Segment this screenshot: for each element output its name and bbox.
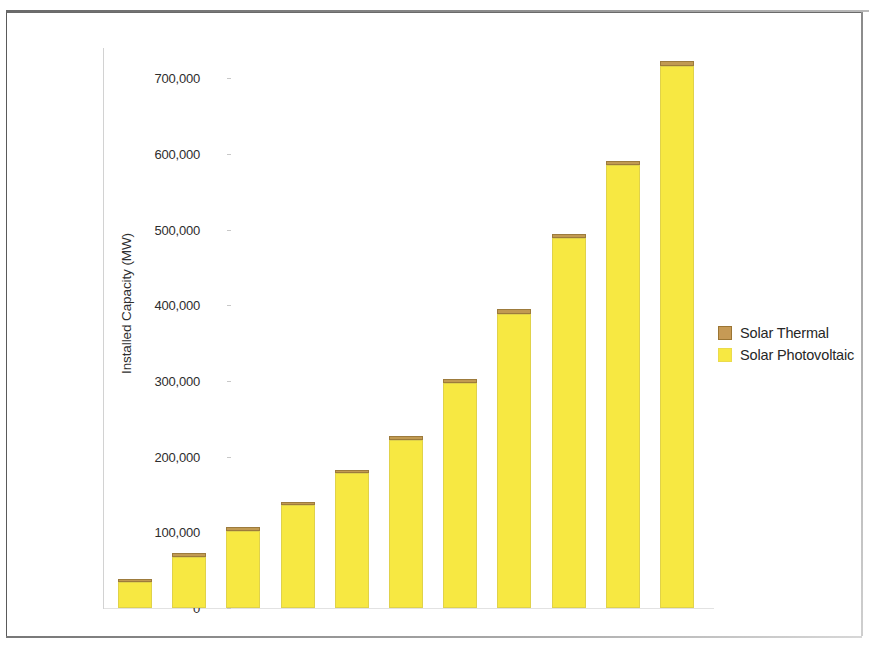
bar-segment-solar-photovoltaic[interactable] (281, 505, 315, 608)
y-axis-ticks: 0100,000200,000300,000400,000500,000600,… (126, 48, 200, 608)
bar-segment-solar-photovoltaic[interactable] (172, 557, 206, 608)
y-tick-mark (227, 305, 231, 306)
bar-segment-solar-thermal[interactable] (552, 234, 586, 238)
plot-area: Installed Capacity (MW) 0100,000200,0003… (104, 48, 704, 608)
chart-page: Installed Capacity (MW) 0100,000200,0003… (0, 0, 869, 649)
y-tick-mark (227, 78, 231, 79)
y-tick-label: 700,000 (130, 71, 200, 86)
y-tick-label: 200,000 (130, 449, 200, 464)
bar-segment-solar-thermal[interactable] (335, 470, 369, 474)
y-tick-label: 400,000 (130, 298, 200, 313)
bar-segment-solar-thermal[interactable] (660, 61, 694, 66)
bar-segment-solar-thermal[interactable] (606, 161, 640, 166)
y-tick-label: 300,000 (130, 373, 200, 388)
bar-segment-solar-photovoltaic[interactable] (660, 66, 694, 608)
y-tick-mark (227, 457, 231, 458)
bar-2011[interactable] (172, 555, 206, 608)
bar-segment-solar-thermal[interactable] (172, 553, 206, 557)
y-tick-mark (227, 608, 231, 609)
bar-2017[interactable] (497, 309, 531, 608)
bar-2018[interactable] (552, 234, 586, 608)
bar-segment-solar-thermal[interactable] (497, 309, 531, 313)
y-tick-label: 100,000 (130, 525, 200, 540)
bar-segment-solar-photovoltaic[interactable] (443, 383, 477, 608)
bar-2015[interactable] (389, 436, 423, 608)
pv-swatch (718, 348, 732, 362)
bar-segment-solar-thermal[interactable] (389, 436, 423, 440)
scan-border-bottom (6, 636, 862, 638)
bar-segment-solar-thermal[interactable] (281, 502, 315, 506)
bar-2010[interactable] (118, 581, 152, 608)
bar-segment-solar-thermal[interactable] (443, 379, 477, 383)
bar-segment-solar-thermal[interactable] (226, 527, 260, 531)
legend-item-label: Solar Thermal (740, 325, 829, 341)
y-tick-label: 600,000 (130, 146, 200, 161)
bar-segment-solar-photovoltaic[interactable] (335, 473, 369, 608)
bar-2013[interactable] (281, 502, 315, 608)
bar-segment-solar-photovoltaic[interactable] (497, 314, 531, 608)
thermal-swatch (718, 326, 732, 340)
bar-segment-solar-photovoltaic[interactable] (606, 165, 640, 608)
bar-2014[interactable] (335, 470, 369, 608)
bar-segment-solar-photovoltaic[interactable] (226, 531, 260, 608)
bar-segment-solar-thermal[interactable] (118, 579, 152, 583)
y-tick-mark (227, 154, 231, 155)
bar-2012[interactable] (226, 529, 260, 608)
bar-2020[interactable] (660, 61, 694, 608)
y-tick-mark (227, 381, 231, 382)
chart-legend: Solar ThermalSolar Photovoltaic (718, 322, 868, 366)
bar-segment-solar-photovoltaic[interactable] (389, 440, 423, 608)
y-tick-label: 500,000 (130, 222, 200, 237)
bar-2016[interactable] (443, 379, 477, 608)
legend-item-solar-photovoltaic[interactable]: Solar Photovoltaic (718, 344, 868, 366)
y-tick-mark (227, 230, 231, 231)
bar-segment-solar-photovoltaic[interactable] (552, 238, 586, 608)
legend-item-label: Solar Photovoltaic (740, 347, 854, 363)
bar-segment-solar-photovoltaic[interactable] (118, 582, 152, 608)
legend-item-solar-thermal[interactable]: Solar Thermal (718, 322, 868, 344)
bar-2019[interactable] (606, 161, 640, 608)
